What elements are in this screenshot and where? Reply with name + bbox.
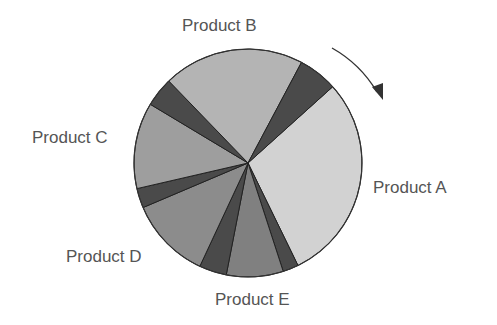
label-product-a: Product A <box>373 178 447 197</box>
label-product-c: Product C <box>32 128 108 147</box>
pie-slices <box>134 49 362 277</box>
label-product-d: Product D <box>66 247 142 266</box>
label-product-b: Product B <box>182 16 257 35</box>
direction-arrow <box>332 48 383 100</box>
label-product-e: Product E <box>215 290 290 309</box>
pie-chart: Product B Product C Product A Product D … <box>0 0 497 325</box>
arrow-arc <box>332 48 377 92</box>
